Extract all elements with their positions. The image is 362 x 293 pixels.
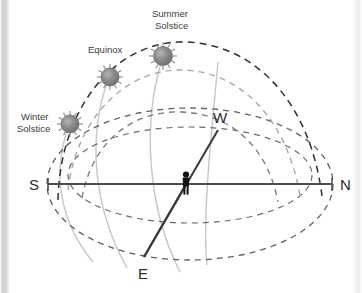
equinox-arc-path [68, 70, 300, 196]
observer-torso [183, 178, 190, 186]
grid-line-4 [206, 62, 218, 265]
sun-highlight-equinox [104, 71, 110, 77]
sun-equinox [97, 64, 123, 90]
label-equinox: Equinox [88, 44, 123, 55]
label-north: N [340, 176, 351, 193]
figure-root: Summer Solstice Equinox Winter Solstice … [0, 0, 362, 293]
label-summer-solstice-line1: Summer [152, 8, 188, 19]
observer-figure [183, 171, 190, 194]
observer-head [183, 171, 189, 177]
label-winter-solstice-line2: Solstice [17, 123, 50, 134]
label-east: E [138, 265, 148, 282]
observer-leg-right [187, 185, 189, 194]
label-west: W [213, 109, 228, 126]
inner-ellipse [68, 127, 312, 223]
sun-path-diagram: Summer Solstice Equinox Winter Solstice … [0, 0, 362, 293]
sun-disc-summer [154, 47, 173, 66]
meridian-grid-lines [60, 60, 218, 272]
label-summer-solstice-line2: Solstice [155, 20, 188, 31]
winter-solstice-arc-path [82, 112, 278, 202]
equinox-arc [68, 70, 300, 196]
sun-highlight-summer [157, 50, 163, 56]
inner-ellipse-path [68, 127, 312, 223]
sun-highlight-winter [64, 118, 70, 124]
sun-disc-winter [61, 115, 79, 133]
label-south: S [29, 176, 39, 193]
grid-line-2 [96, 80, 127, 268]
sun-disc-equinox [101, 68, 119, 86]
winter-solstice-arc [82, 112, 278, 202]
observer-leg-left [183, 185, 185, 194]
sun-winter-solstice [57, 111, 83, 137]
label-winter-solstice-line1: Winter [21, 111, 48, 122]
